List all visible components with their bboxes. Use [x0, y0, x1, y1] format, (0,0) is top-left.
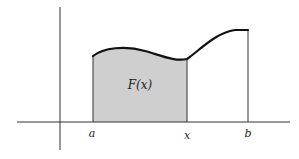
x-label-x: x	[184, 129, 191, 142]
area-function-diagram: F(x) a x b	[0, 0, 299, 159]
x-label-b: b	[244, 127, 251, 140]
area-label: F(x)	[127, 78, 153, 92]
x-label-a: a	[89, 127, 96, 140]
